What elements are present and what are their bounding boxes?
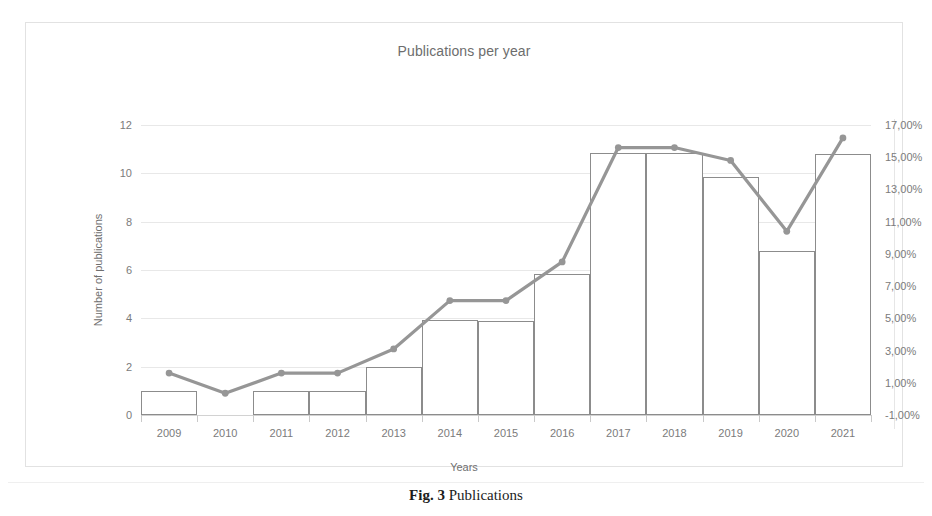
x-axis-tick-mark — [253, 415, 254, 422]
line-marker — [390, 346, 397, 353]
line-marker — [222, 390, 229, 397]
y-axis-right-tick-label: 5,00% — [885, 312, 916, 324]
x-axis-tick-label: 2018 — [662, 427, 686, 439]
bar — [253, 391, 309, 415]
line-marker — [334, 370, 341, 377]
x-axis-tick-label: 2014 — [438, 427, 462, 439]
y-axis-left-title: Number of publications — [92, 214, 104, 327]
chart-frame: Publications per year Number of publicat… — [25, 22, 903, 467]
gridline — [141, 173, 871, 174]
x-axis-tick-mark — [590, 415, 591, 422]
y-axis-right-tick-label: 11,00% — [885, 216, 922, 228]
x-axis-tick-label: 2015 — [494, 427, 518, 439]
gridline — [141, 222, 871, 223]
y-axis-left-tick-label: 10 — [120, 167, 132, 179]
line-marker — [615, 144, 622, 151]
gridline — [141, 125, 871, 126]
y-axis-right-tick-label: 17,00% — [885, 119, 922, 131]
x-axis-tick-label: 2016 — [550, 427, 574, 439]
y-axis-right-tick-label: 1,00% — [885, 377, 916, 389]
x-axis-tick-mark — [534, 415, 535, 422]
bar — [478, 321, 534, 415]
figure-caption-text: Publications — [449, 487, 523, 503]
line-marker — [446, 297, 453, 304]
line-marker — [783, 228, 790, 235]
bar — [366, 367, 422, 415]
bar — [309, 391, 365, 415]
y-axis-right-tick-label: 3,00% — [885, 345, 916, 357]
x-axis-tick-mark — [815, 415, 816, 422]
x-axis-tick-label: 2020 — [775, 427, 799, 439]
y-axis-left-tick-label: 8 — [126, 216, 132, 228]
y-axis-right-tick-label: 13,00% — [885, 183, 922, 195]
line-marker — [727, 157, 734, 164]
x-axis-tick-label: 2021 — [831, 427, 855, 439]
bar — [534, 274, 590, 415]
line-marker — [559, 259, 566, 266]
bar — [759, 251, 815, 415]
chart-title: Publications per year — [26, 43, 902, 59]
y-axis-right-tick-label: 7,00% — [885, 280, 916, 292]
x-axis-tick-mark — [646, 415, 647, 422]
figure-caption-label: Fig. 3 — [409, 487, 445, 503]
bar — [141, 391, 197, 415]
figure-root: Publications per year Number of publicat… — [0, 0, 932, 516]
y-axis-right-tick-label: -1,00% — [885, 409, 920, 421]
bar — [590, 153, 646, 415]
bar — [422, 320, 478, 415]
bar — [646, 153, 702, 415]
x-axis-tick-mark — [759, 415, 760, 422]
x-axis-tick-mark — [309, 415, 310, 422]
bar — [703, 177, 759, 415]
y-axis-left-tick-label: 0 — [126, 409, 132, 421]
line-marker — [671, 144, 678, 151]
x-axis-tick-label: 2017 — [606, 427, 630, 439]
figure-caption: Fig. 3 Publications — [0, 487, 932, 504]
y-axis-right-tick-label: 15,00% — [885, 151, 922, 163]
gridline — [141, 415, 871, 416]
page-rule — [8, 482, 924, 483]
x-axis-tick-mark — [703, 415, 704, 422]
line-marker — [503, 297, 510, 304]
x-axis-tick-mark — [871, 415, 872, 422]
x-axis-tick-mark — [197, 415, 198, 422]
plot-area: 024681012 -1,00%1,00%3,00%5,00%7,00%9,00… — [141, 125, 871, 415]
x-axis-tick-mark — [478, 415, 479, 422]
x-axis-tick-label: 2009 — [157, 427, 181, 439]
y-axis-left-tick-label: 6 — [126, 264, 132, 276]
x-axis-tick-label: 2010 — [213, 427, 237, 439]
x-axis-tick-label: 2013 — [381, 427, 405, 439]
line-marker — [166, 370, 173, 377]
line-marker — [840, 134, 847, 141]
bar — [815, 154, 871, 415]
x-axis-tick-label: 2019 — [718, 427, 742, 439]
x-axis-title: Years — [26, 461, 902, 473]
x-axis-tick-mark — [141, 415, 142, 422]
x-axis-tick-label: 2011 — [270, 427, 294, 439]
x-axis-tick-label: 2012 — [325, 427, 349, 439]
x-axis-tick-mark — [422, 415, 423, 422]
y-axis-right-tick-label: 9,00% — [885, 248, 916, 260]
y-axis-left-tick-label: 4 — [126, 312, 132, 324]
y-axis-left-tick-label: 12 — [120, 119, 132, 131]
y-axis-left-tick-label: 2 — [126, 361, 132, 373]
line-marker — [278, 370, 285, 377]
x-axis-tick-mark — [366, 415, 367, 422]
